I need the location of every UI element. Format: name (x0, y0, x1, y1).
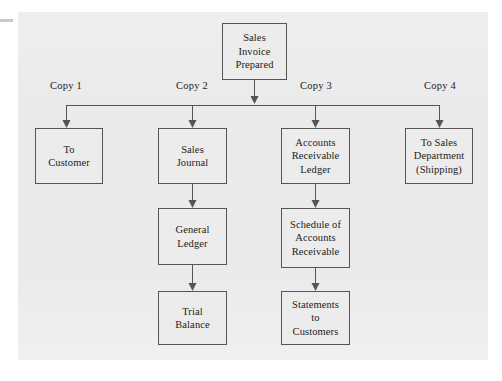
node-line: Accounts (290, 231, 341, 244)
node-line: Ledger (292, 163, 340, 176)
node-line: Customer (48, 156, 90, 169)
node-line: To (48, 143, 90, 156)
node-line: Customers (292, 325, 339, 338)
node-line: Receivable (292, 149, 340, 162)
node-line: (Shipping) (414, 163, 465, 176)
node-line: Journal (177, 156, 209, 169)
arrowhead-copy-3 (312, 120, 320, 128)
arrowhead-copy-2 (189, 120, 197, 128)
node-line: to (292, 311, 339, 324)
node-line: Trial (175, 305, 210, 318)
sales-invoice-flowchart: Sales Invoice Prepared Copy 1 Copy 2 Cop… (0, 0, 502, 381)
node-trial-balance[interactable]: Trial Balance (158, 291, 227, 345)
node-to-sales-department[interactable]: To Sales Department (Shipping) (405, 128, 473, 184)
arrowhead-trial-balance (189, 283, 197, 291)
arrowhead-copy-4 (436, 120, 444, 128)
node-statements-to-customers[interactable]: Statements to Customers (281, 291, 350, 345)
arrowhead-general-ledger (189, 200, 197, 208)
node-line: Schedule of (290, 218, 341, 231)
arrowhead-root-stem (251, 96, 259, 104)
node-line: Accounts (292, 136, 340, 149)
node-sales-journal[interactable]: Sales Journal (158, 128, 227, 184)
branch-label-copy-4: Copy 4 (424, 80, 456, 91)
node-line: Invoice (235, 45, 273, 58)
node-line: Department (414, 149, 465, 162)
node-line: Prepared (235, 58, 273, 71)
node-general-ledger[interactable]: General Ledger (158, 208, 227, 265)
branch-label-copy-1: Copy 1 (50, 80, 82, 91)
node-line: Ledger (176, 237, 210, 250)
branch-label-copy-3: Copy 3 (300, 80, 332, 91)
arrowhead-statements (312, 283, 320, 291)
diagram-canvas: Sales Invoice Prepared Copy 1 Copy 2 Cop… (0, 0, 502, 381)
node-sales-invoice-prepared[interactable]: Sales Invoice Prepared (222, 23, 287, 80)
branch-label-copy-2: Copy 2 (176, 80, 208, 91)
node-line: To Sales (414, 136, 465, 149)
node-accounts-receivable-ledger[interactable]: Accounts Receivable Ledger (281, 128, 350, 184)
node-line: Balance (175, 318, 210, 331)
node-to-customer[interactable]: To Customer (35, 128, 103, 184)
node-line: Receivable (290, 245, 341, 258)
arrowhead-schedule (312, 200, 320, 208)
node-line: Sales (235, 31, 273, 44)
arrowhead-copy-1 (63, 120, 71, 128)
node-line: General (176, 223, 210, 236)
node-line: Statements (292, 298, 339, 311)
node-schedule-of-accounts-receivable[interactable]: Schedule of Accounts Receivable (281, 208, 350, 268)
node-line: Sales (177, 143, 209, 156)
